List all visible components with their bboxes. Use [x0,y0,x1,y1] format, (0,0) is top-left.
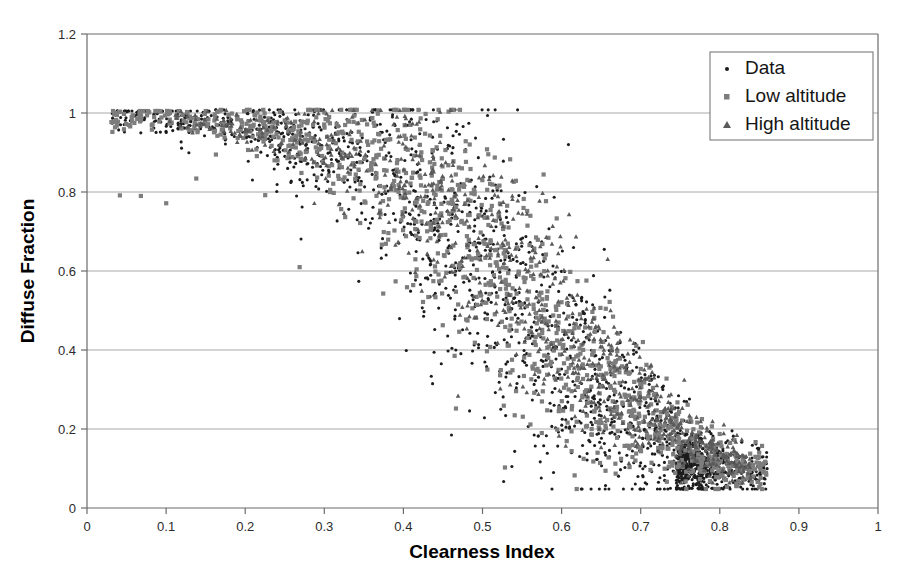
data-point [450,152,453,155]
data-point [533,383,536,386]
data-point [565,347,568,350]
data-point [215,123,219,127]
data-point [583,325,587,329]
data-point [435,187,439,191]
data-point [608,289,611,292]
data-point [751,487,754,490]
data-point [442,253,446,257]
data-point [490,319,493,322]
data-point [675,400,679,404]
data-point [233,135,236,138]
legend-label-high-altitude: High altitude [745,113,851,134]
data-point [371,173,374,176]
data-point [748,452,752,456]
data-point [545,434,548,437]
data-point [645,401,648,404]
data-point [439,202,443,206]
data-point [644,465,647,468]
data-point [339,108,343,112]
data-point [534,379,537,382]
data-point [547,227,550,230]
data-point [601,330,605,334]
data-point [480,210,483,213]
data-point [374,155,378,159]
data-point [517,341,520,344]
data-point [559,376,563,380]
data-point [444,287,447,290]
data-point [468,289,471,292]
data-point [428,133,432,137]
data-point [543,256,547,260]
data-point [373,176,377,180]
data-point [181,113,185,117]
data-point [548,362,552,366]
data-point [632,349,635,352]
data-point [429,274,432,277]
data-point [627,423,631,427]
data-point [549,409,552,412]
data-point [542,353,546,357]
data-point [560,424,563,427]
data-point [643,404,646,407]
data-point [524,263,527,266]
data-point [301,205,304,208]
data-point [299,237,302,240]
data-point [598,441,601,444]
data-point [502,160,505,163]
data-point [533,433,536,436]
y-tick-label: 1.2 [58,27,76,42]
data-point [319,165,322,168]
data-point [603,451,606,454]
data-point [498,381,501,384]
data-point [495,260,499,264]
data-point [575,279,579,283]
data-point [593,417,596,420]
data-point [557,314,561,318]
data-point [273,168,276,171]
data-point [471,362,474,365]
data-point [430,375,433,378]
data-point [589,385,593,389]
data-point [725,485,729,489]
data-point [139,194,143,198]
data-point [196,109,199,112]
data-point [453,354,457,358]
data-point [447,239,450,242]
data-point [421,306,424,309]
data-point [292,165,295,168]
data-point [759,476,763,480]
data-point [343,123,347,127]
data-point [494,225,497,228]
y-tick-label: 0.6 [58,264,76,279]
data-point [718,432,722,436]
data-point [544,199,548,203]
data-point [115,124,119,128]
data-point [667,425,671,429]
data-point [449,297,452,300]
data-point [574,395,577,398]
data-point [641,340,645,344]
data-point [387,151,390,154]
data-point [298,178,301,181]
data-point [764,487,767,490]
data-point [458,108,462,112]
data-point [392,108,396,112]
data-point [700,487,703,490]
data-point [444,264,447,267]
data-point [301,181,304,184]
data-point [491,189,494,192]
data-point [663,428,666,431]
data-point [627,388,630,391]
data-point [529,265,533,269]
data-point [544,252,548,256]
data-point [447,349,450,352]
x-tick-label: 1 [874,519,881,534]
data-point [416,108,420,112]
data-point [290,180,293,183]
data-point [164,201,168,205]
data-point [489,208,493,212]
data-point [570,407,574,411]
data-point [435,145,439,149]
data-point [647,410,650,413]
data-point [372,120,376,124]
